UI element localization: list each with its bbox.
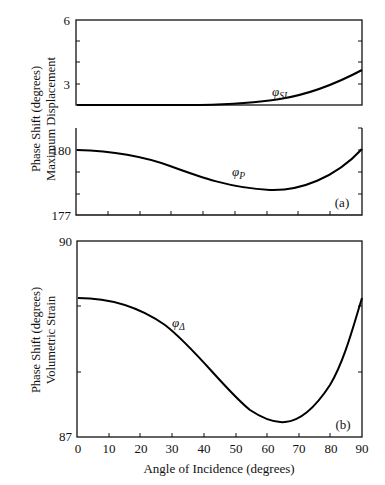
label-phi-si: φSI (272, 84, 288, 101)
ytick-90: 90 (59, 234, 72, 249)
ylabel-a-line1: Phase Shift (degrees) (29, 66, 43, 172)
ylabel-b-line2: Volumetric Strain (44, 295, 58, 384)
panel-tag-a: (a) (335, 195, 349, 210)
ytick-177: 177 (52, 208, 72, 223)
xtick-70: 70 (293, 441, 306, 456)
figure-canvas: 6 3 φSI 180 177 φP (a) Phase Shift (degr… (0, 0, 385, 485)
xtick-20: 20 (135, 441, 148, 456)
panel-phi-p-frame (76, 128, 362, 215)
curve-phi-delta (78, 298, 362, 422)
ytick-6: 6 (64, 13, 71, 28)
curve-phi-si (77, 70, 362, 105)
xtick-60: 60 (262, 441, 275, 456)
label-phi-delta: φΔ (172, 315, 185, 332)
xtick-10: 10 (103, 441, 116, 456)
x-tick-labels: 0 10 20 30 40 50 60 70 80 90 (75, 441, 369, 456)
panel-phi-si: 6 3 φSI (64, 13, 363, 105)
x-axis-label: Angle of Incidence (degrees) (143, 461, 294, 476)
ytick-87: 87 (59, 429, 73, 444)
ytick-3: 3 (64, 77, 71, 92)
panel-phi-p: 180 177 φP (a) (52, 128, 363, 223)
xtick-0: 0 (75, 441, 82, 456)
panel-phi-delta-frame (77, 241, 362, 437)
xtick-80: 80 (325, 441, 338, 456)
curve-phi-p (77, 149, 362, 190)
ylabel-b-line1: Phase Shift (degrees) (29, 287, 43, 393)
panel-phi-delta: 90 87 φΔ (b) (59, 234, 362, 444)
panel-phi-si-frame (76, 20, 362, 105)
xtick-50: 50 (230, 441, 243, 456)
label-phi-p: φP (232, 164, 245, 181)
panel-tag-b: (b) (335, 417, 350, 432)
xtick-30: 30 (166, 441, 179, 456)
xtick-90: 90 (356, 441, 369, 456)
ylabel-a-line2: Maximum Displacement (44, 57, 58, 181)
xtick-40: 40 (198, 441, 211, 456)
